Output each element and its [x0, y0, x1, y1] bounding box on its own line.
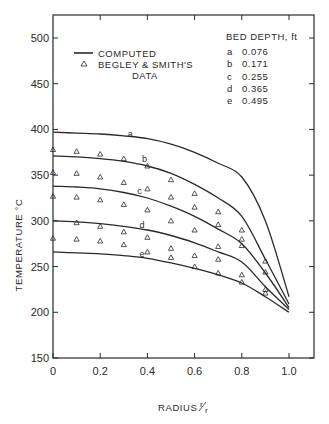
data-triangle-icon: [74, 171, 79, 176]
x-tick-label: 0.2: [93, 365, 108, 377]
legend-data-label-line1: BEGLEY & SMITH'S: [98, 59, 193, 70]
data-triangle-icon: [74, 237, 79, 242]
legend-computed-label: COMPUTED: [98, 48, 156, 59]
y-tick-label: 300: [31, 215, 49, 227]
data-triangle-icon: [98, 174, 103, 179]
data-triangle-icon: [192, 205, 197, 210]
data-triangle-icon: [121, 229, 126, 234]
y-tick-label: 150: [31, 352, 49, 364]
bed-depth-key: d: [227, 83, 233, 94]
data-triangle-icon: [263, 258, 268, 263]
x-axis-label: RADIUS r r: [158, 400, 208, 415]
bed-depth-key: a: [227, 46, 233, 57]
data-triangle-icon: [121, 180, 126, 185]
data-triangle-icon: [168, 218, 173, 223]
y-tick-label: 350: [31, 169, 49, 181]
data-triangle-icon: [239, 237, 244, 242]
bed-depth-key: e: [227, 95, 233, 106]
data-triangle-icon: [121, 242, 126, 247]
data-triangle-icon: [74, 194, 79, 199]
data-triangle-icon: [121, 202, 126, 207]
data-triangle-icon: [98, 152, 103, 157]
curve-tag-e: e: [140, 249, 145, 259]
temperature-vs-radius-chart: 15020025030035040045050000.20.40.60.81.0…: [0, 0, 329, 424]
x-axis-label-fraction-den: r: [205, 406, 208, 415]
data-triangle-icon: [168, 194, 173, 199]
y-axis-label: TEMPERATURE °C: [13, 199, 24, 292]
y-tick-label: 400: [31, 123, 49, 135]
data-triangle-icon: [145, 207, 150, 212]
y-tick-label: 450: [31, 78, 49, 90]
bed-depth-title: BED DEPTH, ft: [226, 31, 297, 42]
x-tick-label: 0: [50, 365, 56, 377]
data-triangle-icon: [168, 255, 173, 260]
data-triangle-icon: [192, 227, 197, 232]
x-tick-label: 1.0: [281, 365, 296, 377]
bed-depth-value: 0.076: [242, 46, 268, 57]
curve-b: [53, 156, 289, 304]
data-triangle-icon: [168, 246, 173, 251]
data-triangle-icon: [216, 209, 221, 214]
legend-triangle-icon: [81, 61, 87, 66]
data-triangle-icon: [145, 249, 150, 254]
data-triangle-icon: [98, 238, 103, 243]
data-triangle-icon: [216, 222, 221, 227]
legend: COMPUTED BEGLEY & SMITH'S DATA: [74, 48, 193, 81]
legend-data-label-line2: DATA: [132, 70, 158, 81]
x-tick-label: 0.8: [234, 365, 249, 377]
bed-depth-key: c: [227, 71, 232, 82]
data-triangle-icon: [74, 149, 79, 154]
bed-depth-value: 0.495: [242, 95, 268, 106]
curve-tag-b: b: [142, 154, 147, 164]
curve-e: [53, 252, 289, 312]
data-triangle-icon: [145, 186, 150, 191]
bed-depth-value: 0.365: [242, 83, 268, 94]
bed-depth-value: 0.255: [242, 71, 268, 82]
x-axis-label-main: RADIUS: [158, 402, 198, 413]
x-tick-label: 0.4: [140, 365, 155, 377]
data-triangle-icon: [216, 257, 221, 262]
curve-a: [53, 132, 289, 297]
data-triangle-icon: [239, 272, 244, 277]
y-tick-label: 500: [31, 32, 49, 44]
data-triangle-icon: [239, 227, 244, 232]
bed-depth-key: b: [227, 58, 233, 69]
data-triangle-icon: [216, 244, 221, 249]
curve-tag-c: c: [137, 186, 142, 196]
data-triangle-icon: [121, 156, 126, 161]
data-triangle-icon: [168, 177, 173, 182]
data-triangle-icon: [192, 253, 197, 258]
y-tick-label: 250: [31, 261, 49, 273]
data-triangle-icon: [98, 197, 103, 202]
data-triangle-icon: [145, 235, 150, 240]
bed-depth-value: 0.171: [242, 58, 268, 69]
curve-tag-a: a: [128, 129, 133, 139]
bed-depth-table: BED DEPTH, ft a0.076b0.171c0.255d0.365e0…: [226, 31, 297, 106]
curve-d: [53, 221, 289, 310]
curve-tag-d: d: [140, 220, 145, 230]
data-triangle-icon: [192, 191, 197, 196]
x-tick-label: 0.6: [187, 365, 202, 377]
y-tick-label: 200: [31, 306, 49, 318]
computed-curves: [53, 132, 289, 312]
